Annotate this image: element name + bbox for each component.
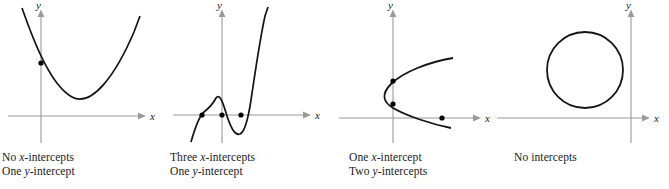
graph-cubic: x y	[163, 0, 338, 145]
graph-parabola-up: x y	[0, 0, 170, 145]
caption-text: -intercepts	[24, 151, 74, 163]
caption-line-2: One y-intercept	[2, 164, 75, 178]
x-intercept-point	[439, 115, 444, 120]
caption-line-2: Two y-intercepts	[349, 164, 427, 178]
caption-line-1: One x-intercept	[349, 150, 427, 164]
panel-caption: No intercepts	[514, 150, 577, 164]
caption-text: -intercept	[377, 151, 422, 163]
caption-text: Three	[170, 151, 200, 163]
y-intercept-point	[38, 60, 43, 65]
panel-caption: Three x-intercepts One y-intercept	[170, 150, 255, 178]
caption-text: One	[2, 165, 24, 177]
x-axis-label: x	[314, 109, 320, 121]
panel-one-x-intercept: x y One x-intercept Two y-intercepts	[331, 0, 511, 189]
caption-text: No	[2, 151, 19, 163]
y-axis	[38, 10, 45, 144]
caption-text: -intercept	[30, 165, 75, 177]
x-axis	[8, 113, 146, 120]
y-intercept-point-upper	[390, 78, 395, 83]
x-intercept-point-2	[219, 112, 224, 117]
caption-line-2: One y-intercept	[170, 164, 255, 178]
graph-circle: x y	[492, 0, 669, 145]
panel-caption: No x-intercepts One y-intercept	[2, 150, 75, 178]
y-axis	[219, 10, 226, 144]
panel-caption: One x-intercept Two y-intercepts	[349, 150, 427, 178]
x-axis	[497, 115, 650, 122]
y-axis-label: y	[35, 0, 41, 11]
caption-text: -intercepts	[206, 151, 256, 163]
caption-line-1: No intercepts	[514, 150, 577, 164]
panel-no-intercepts: x y No intercepts	[492, 0, 669, 189]
caption-text: -intercepts	[378, 165, 428, 177]
graph-sideways-parabola: x y	[331, 0, 511, 145]
x-intercept-point-3	[238, 112, 243, 117]
caption-text: No intercepts	[514, 151, 577, 163]
x-axis-label: x	[653, 112, 659, 124]
panel-three-x-intercepts: x y Three x-intercepts One y-intercept	[163, 0, 338, 189]
caption-text: Two	[349, 165, 373, 177]
y-intercept-point-lower	[390, 101, 395, 106]
caption-text: One	[349, 151, 371, 163]
parabola-curve	[22, 8, 140, 99]
caption-line-1: No x-intercepts	[2, 150, 75, 164]
cubic-curve	[191, 7, 268, 142]
caption-line-1: Three x-intercepts	[170, 150, 255, 164]
y-axis	[390, 10, 397, 144]
y-axis	[628, 10, 635, 144]
x-axis-label: x	[149, 110, 155, 122]
intercepts-figure: x y No x-intercepts One y-intercept x y	[0, 0, 669, 189]
caption-text: One	[170, 165, 192, 177]
y-axis-label: y	[625, 0, 631, 11]
x-intercept-point-1	[199, 112, 204, 117]
x-axis-label: x	[484, 112, 490, 124]
y-axis-label: y	[387, 0, 393, 11]
caption-text: -intercept	[198, 165, 243, 177]
y-axis-label: y	[216, 0, 222, 11]
panel-no-x-intercepts: x y No x-intercepts One y-intercept	[0, 0, 170, 189]
circle-curve	[547, 32, 623, 108]
